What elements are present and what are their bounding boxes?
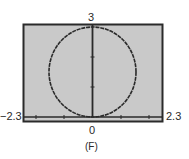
x-max-label: 2.3	[166, 111, 181, 122]
y-max-label: 3	[88, 12, 94, 23]
x-min-label: −2.3	[0, 111, 22, 122]
figure-caption: (F)	[85, 141, 98, 152]
y-min-label: 0	[89, 125, 95, 136]
